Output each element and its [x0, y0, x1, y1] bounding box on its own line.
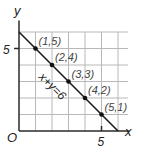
origin-label: O — [7, 130, 17, 145]
y-tick-label: 5 — [3, 43, 10, 57]
labels: 55yxO(1,5)(2,4)(3,3)(4,2)(5,1)x+y=6 — [3, 3, 132, 149]
data-point — [50, 63, 55, 68]
x-axis-label: x — [124, 124, 132, 139]
point-label: (2,4) — [55, 51, 78, 63]
data-point — [66, 79, 71, 84]
point-label: (1,5) — [39, 35, 62, 47]
y-axis-label: y — [13, 3, 22, 18]
data-point — [83, 96, 88, 101]
x-tick-label: 5 — [98, 135, 105, 149]
data-point — [99, 112, 104, 117]
data-point — [33, 46, 38, 51]
coordinate-graph: 55yxO(1,5)(2,4)(3,3)(4,2)(5,1)x+y=6 — [0, 0, 143, 157]
point-label: (4,2) — [88, 84, 111, 96]
point-label: (3,3) — [72, 68, 95, 80]
point-label: (5,1) — [105, 101, 128, 113]
